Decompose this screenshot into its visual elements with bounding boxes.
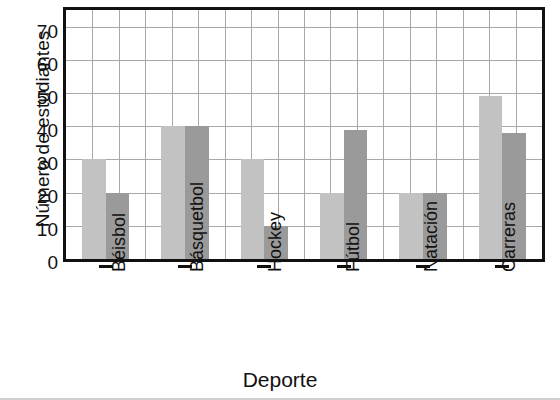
gridline-vertical	[145, 10, 146, 259]
bar-chart: Número de estudiantes 0 10 20 30 40 50 6…	[0, 0, 560, 400]
gridline-vertical	[225, 10, 226, 259]
x-tick-mark	[257, 265, 271, 268]
y-tick-label: 30	[20, 154, 58, 173]
y-tick-label: 10	[20, 220, 58, 239]
bar-fútbol-serie-1	[320, 193, 344, 259]
plot-inner	[66, 10, 542, 259]
bar-hockey-serie-1	[241, 159, 265, 259]
gridline-vertical	[383, 10, 384, 259]
y-tick-label: 50	[20, 88, 58, 107]
y-tick-label: 20	[20, 187, 58, 206]
x-tick-label-beisbol: Béisbol	[110, 152, 128, 272]
x-tick-mark	[178, 265, 192, 268]
bar-natación-serie-1	[399, 193, 423, 259]
x-tick-label-natacion: Natación	[422, 152, 440, 272]
y-tick-label: 60	[20, 55, 58, 74]
y-tick-label: 70	[20, 22, 58, 41]
bar-béisbol-serie-1	[82, 159, 106, 259]
x-tick-mark	[337, 265, 351, 268]
y-tick-label: 40	[20, 121, 58, 140]
bar-básquetbol-serie-1	[161, 126, 185, 259]
gridline-vertical	[304, 10, 305, 259]
x-axis-title: Deporte	[0, 368, 560, 392]
x-tick-mark	[416, 265, 430, 268]
x-tick-mark	[495, 265, 509, 268]
x-tick-label-basquetbol: Básquetbol	[188, 152, 206, 272]
y-tick-label: 0	[20, 253, 58, 272]
plot-area	[63, 7, 545, 262]
x-tick-mark	[99, 265, 113, 268]
x-tick-label-carreras: Carreras	[500, 152, 518, 272]
x-tick-label-hockey: Hockey	[266, 152, 284, 272]
gridline-vertical	[463, 10, 464, 259]
x-tick-label-futbol: Fútbol	[344, 152, 362, 272]
y-axis-tick-labels: 0 10 20 30 40 50 60 70	[16, 0, 58, 280]
